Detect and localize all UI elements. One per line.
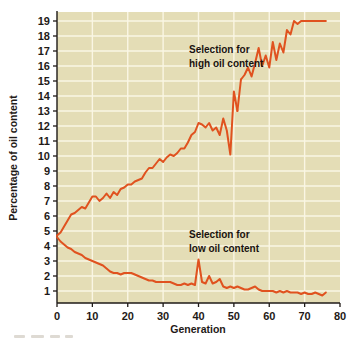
x-tick-label: 50 [228,310,240,322]
x-tick-label: 20 [122,310,134,322]
annotation-low-oil-line2: low oil content [189,243,260,254]
y-tick-label: 6 [44,210,50,222]
y-tick-label: 3 [44,255,50,267]
y-tick-label: 8 [44,180,50,192]
y-tick-label: 13 [38,105,50,117]
y-tick-label: 15 [38,75,50,87]
x-axis-title: Generation [170,323,225,335]
y-tick-label: 10 [38,150,50,162]
caption-fragment [14,331,134,341]
y-tick-label: 11 [38,135,50,147]
chart-canvas: 01020304050607080 1234567891011121314151… [0,0,355,346]
x-tick-label: 0 [54,310,60,322]
y-tick-label: 18 [38,30,50,42]
x-tick-label: 10 [86,310,98,322]
annotation-high-oil-line2: high oil content [189,58,264,69]
x-tick-label: 40 [192,310,204,322]
y-tick-label: 17 [38,45,50,57]
x-tick-label: 80 [334,310,346,322]
x-tick-label: 60 [263,310,275,322]
x-tick-label: 70 [299,310,311,322]
y-tick-label: 1 [44,285,50,297]
y-tick-label: 16 [38,60,50,72]
y-tick-label: 4 [44,240,51,252]
y-tick-label: 19 [38,15,50,27]
y-axis-title: Percentage of oil content [7,95,19,221]
annotation-low-oil-line1: Selection for [189,229,250,240]
y-tick-label: 5 [44,225,50,237]
y-tick-label: 2 [44,270,50,282]
y-tick-label: 14 [38,90,51,102]
x-tick-label: 30 [157,310,169,322]
oil-content-selection-figure: 01020304050607080 1234567891011121314151… [0,0,355,346]
y-tick-label: 9 [44,165,50,177]
y-tick-label: 7 [44,195,50,207]
annotation-high-oil-line1: Selection for [189,44,250,55]
x-axis-tick-labels: 01020304050607080 [54,310,346,322]
y-tick-label: 12 [38,120,50,132]
